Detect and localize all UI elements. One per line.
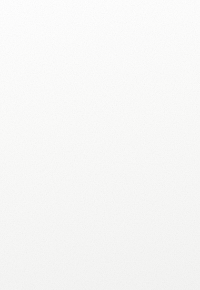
clade-label-crocodiles: ocodiles [0, 78, 27, 88]
figure-page: ocodiles Pterosaurs "Dinosaurs" "Archosa… [0, 0, 200, 290]
rule-top [14, 20, 189, 21]
clade-label-pterosaurs: Pterosaurs [38, 140, 81, 150]
dashed-stem-crocodiles [10, 168, 11, 187]
dashed-stem-dinosaurs [143, 172, 144, 187]
dashed-stem-pterosaurs [66, 166, 67, 187]
clade-label-archosaurs: "Archosaurs" [22, 262, 76, 272]
clade-label-dinosaurs: "Dinosaurs" [112, 131, 161, 141]
rule-right-border [188, 20, 189, 278]
dashed-bracket-crossbar [10, 186, 143, 187]
rule-bottom [0, 278, 189, 279]
pterosaur-silhouette-icon [20, 97, 94, 145]
rule-upper-divider [0, 70, 189, 71]
rule-lower-divider [0, 196, 189, 197]
